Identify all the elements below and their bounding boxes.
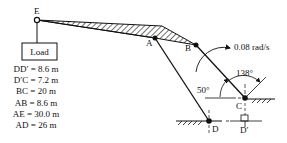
- dimension-ab: AB = 8.6 m: [10, 98, 62, 109]
- pin-c: [242, 95, 248, 101]
- label-d: D: [212, 124, 219, 134]
- d-prime-marker: [241, 115, 248, 121]
- dimension-d-prime-c: D′C = 7.2 m: [10, 75, 62, 86]
- angle-138-ref-line: [245, 77, 266, 98]
- label-a: A: [146, 38, 153, 48]
- ground-hatch-c: [252, 99, 271, 103]
- ground-hatch-d: [178, 121, 202, 125]
- label-b: B: [185, 43, 191, 53]
- dimension-ad: AD = 26 m: [10, 120, 62, 131]
- label-c: C: [236, 101, 242, 111]
- pin-b: [194, 43, 199, 48]
- angle-138-label: 138°: [236, 68, 254, 78]
- dimension-bc: BC = 20 m: [10, 86, 62, 97]
- dimension-dd-prime: DD′ = 8.6 m: [10, 64, 62, 75]
- load-label: Load: [30, 47, 49, 57]
- dimension-ae: AE = 30.0 m: [10, 109, 62, 120]
- dimension-list: DD′ = 8.6 m D′C = 7.2 m BC = 20 m AB = 8…: [10, 64, 62, 131]
- angle-50-label: 50°: [197, 85, 210, 95]
- pin-e: [34, 17, 39, 22]
- label-e: E: [34, 6, 40, 16]
- pin-a: [153, 36, 158, 41]
- angular-velocity-label: 0.08 rad/s: [234, 42, 270, 52]
- label-d-prime: D′: [240, 125, 248, 135]
